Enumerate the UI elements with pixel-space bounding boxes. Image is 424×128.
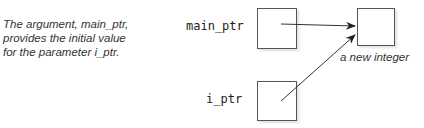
- main-ptr-arrow: [281, 24, 355, 26]
- i-ptr-arrow: [281, 35, 355, 101]
- pointer-arrows: [0, 0, 424, 128]
